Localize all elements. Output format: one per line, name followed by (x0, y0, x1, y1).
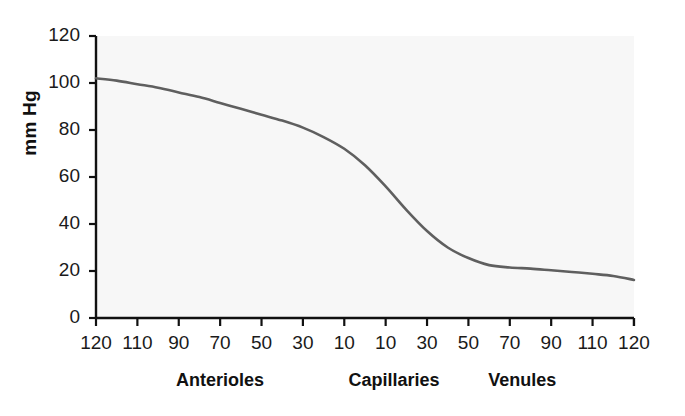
data-line-blood-pressure (96, 78, 634, 280)
data-series-group (96, 78, 634, 280)
chart-canvas (0, 0, 685, 416)
axes-group (89, 36, 634, 326)
pressure-chart-figure: mm Hg 020406080100120 120110907050301010… (0, 0, 685, 416)
